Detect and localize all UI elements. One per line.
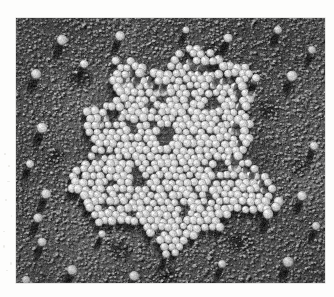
figure-page [0, 0, 334, 297]
micrograph-canvas [16, 18, 325, 283]
scan-speck [8, 165, 10, 167]
micrograph-plate [16, 18, 325, 283]
scan-speck [5, 199, 7, 200]
figure-caption [0, 0, 1, 1]
scan-speck [3, 231, 4, 232]
scan-speck [11, 215, 13, 217]
scan-artifact-speckles [0, 150, 16, 290]
scan-speck [7, 181, 10, 183]
scan-speck [3, 245, 5, 247]
scan-speck [4, 153, 6, 155]
scan-speck [6, 270, 8, 271]
scan-speck [10, 262, 12, 265]
